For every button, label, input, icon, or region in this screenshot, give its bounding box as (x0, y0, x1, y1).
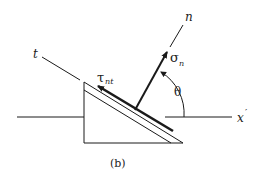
wedge-inner-line (84, 90, 171, 143)
svg-text:n: n (179, 59, 184, 68)
t-axis-line (42, 57, 80, 80)
n-axis-label: n (185, 10, 193, 24)
svg-text:x: x (237, 111, 244, 125)
x-prime-axis-label: x ′ (237, 107, 248, 125)
svg-text:σ: σ (170, 50, 179, 65)
svg-text:τ: τ (97, 70, 104, 85)
wedge-element (84, 82, 183, 143)
t-axis-label: t (33, 47, 38, 61)
shear-stress-label: τ nt (97, 70, 114, 86)
normal-stress-label: σ n (170, 50, 184, 68)
svg-text:nt: nt (105, 77, 114, 86)
stress-element-diagram: t n σ n τ nt θ x ′ (b) (0, 0, 259, 179)
svg-text:′: ′ (245, 107, 248, 118)
figure-caption: (b) (110, 157, 126, 170)
n-axis-line (170, 25, 183, 47)
theta-label: θ (174, 85, 181, 99)
normal-stress-arrow (135, 52, 167, 110)
